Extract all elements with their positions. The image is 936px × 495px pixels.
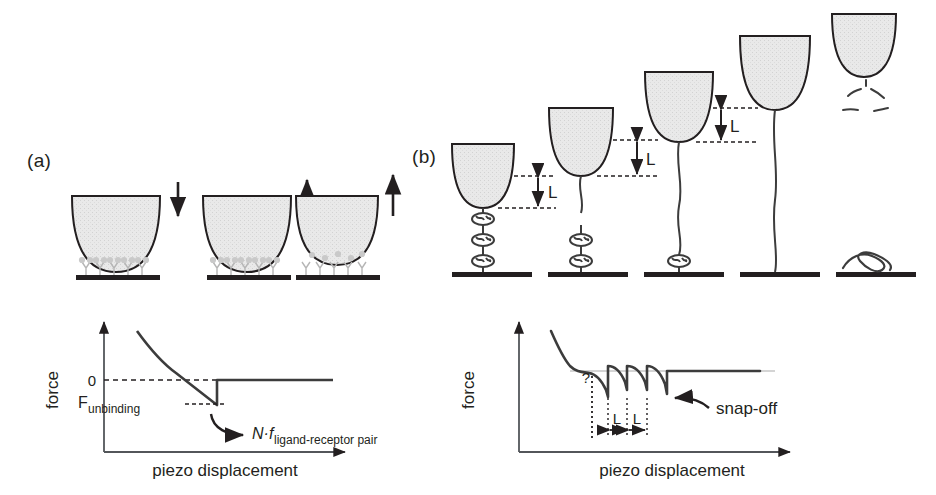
y-axis-label: force [43, 371, 62, 409]
sawtooth-force-curve [551, 331, 760, 397]
substrate-surface [548, 272, 628, 277]
annotation-arrow [211, 414, 243, 435]
L-span-label-2: L [633, 410, 641, 427]
L-span-label-1: L [613, 410, 621, 427]
figure-canvas: force 0 piezo displacement F unbinding N… [0, 0, 936, 495]
afm-state-unbound [296, 175, 393, 280]
snap-off-arrow [675, 398, 709, 408]
n-f-main: N·f [252, 425, 275, 442]
substrate-surface [76, 275, 160, 280]
x-axis-label: piezo displacement [152, 461, 298, 480]
substrate-surface [207, 275, 291, 280]
substrate-surface [452, 272, 532, 277]
polymer-state-3-domains: L [452, 144, 557, 277]
panel-b-chart: ? L L snap-off force piezo displacement [459, 322, 790, 480]
polymer-state-detached [832, 14, 916, 277]
afm-tip-shape [452, 144, 514, 208]
afm-tip-shape [740, 36, 810, 110]
snap-off-burst [843, 80, 888, 111]
panel-label-b: (b) [412, 146, 436, 168]
figure-root: (a) (b) [0, 0, 936, 495]
polymer-extended [774, 110, 776, 272]
snap-off-label: snap-off [716, 399, 777, 418]
question-marker: ? [582, 369, 590, 386]
panel-a-chart: force 0 piezo displacement F unbinding N… [43, 322, 377, 480]
afm-tip-shape [645, 72, 713, 142]
relaxed-polymer-coil [843, 252, 891, 271]
polymer-state-2-domains: L [548, 108, 658, 277]
afm-tip-shape [832, 14, 896, 77]
f-unbinding-main: F [78, 394, 88, 411]
y-axis-label: force [459, 371, 478, 409]
L-label: L [730, 117, 739, 136]
force-curve [137, 331, 333, 405]
afm-tip-shape [549, 108, 613, 176]
substrate-surface [296, 275, 380, 280]
y-tick-zero: 0 [88, 372, 96, 389]
polymer-linker [580, 176, 582, 272]
L-label: L [646, 150, 655, 169]
polymer-state-1-domain: L [644, 72, 758, 277]
x-axis-label: piezo displacement [599, 461, 745, 480]
n-f-sub: ligand-receptor pair [274, 433, 377, 447]
folded-domains [668, 255, 690, 267]
panel-label-a: (a) [27, 150, 51, 172]
substrate-surface [836, 272, 916, 277]
afm-state-retract-bound [203, 180, 307, 280]
afm-state-approach [72, 182, 178, 280]
folded-domains [472, 213, 494, 267]
substrate-surface [740, 272, 820, 277]
substrate-surface [644, 272, 724, 277]
panel-b-illustration: L L [452, 14, 916, 277]
L-label: L [548, 183, 557, 202]
polymer-state-extended [740, 36, 820, 277]
polymer-linker [678, 142, 681, 272]
f-unbinding-sub: unbinding [88, 402, 140, 416]
panel-a-illustration [72, 175, 393, 280]
